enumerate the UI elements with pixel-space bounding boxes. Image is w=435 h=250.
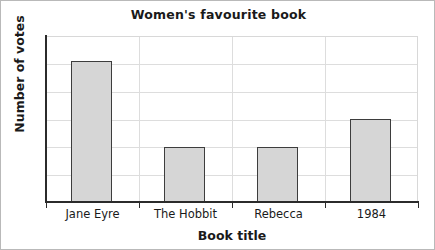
x-tick-label-1984: 1984 [325,207,418,221]
x-tick-label-rebecca: Rebecca [232,207,325,221]
gridline-vertical [139,37,140,201]
y-axis-line [45,35,47,203]
bar-the-hobbit [164,147,205,202]
bar-rebecca [257,147,298,202]
bar-chart-screenshot: Women's favourite book Jane Eyre The Hob… [0,0,435,250]
x-tick-label-the-hobbit: The Hobbit [139,207,232,221]
x-tick-label-jane-eyre: Jane Eyre [46,207,139,221]
bar-1984 [350,119,391,202]
x-axis-title: Book title [46,228,418,243]
gridline-vertical [325,37,326,201]
y-axis-title: Number of votes [12,4,27,144]
chart-title: Women's favourite book [1,7,435,22]
x-axis-tick [418,203,419,208]
bar-jane-eyre [71,61,112,202]
y-axis-title-wrapper: Number of votes [12,4,32,144]
gridline-vertical [232,37,233,201]
